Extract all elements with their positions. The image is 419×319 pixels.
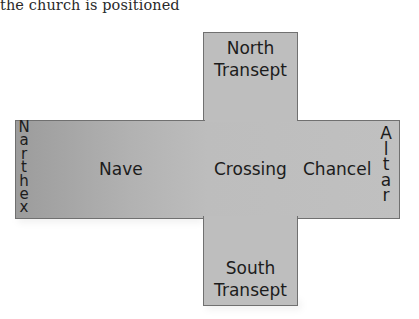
chancel-label: Chancel — [303, 161, 371, 178]
altar-label: A l t a r — [377, 126, 395, 204]
south-joint — [205, 217, 297, 220]
south-transept-label: South Transept — [203, 257, 298, 301]
north-joint — [205, 119, 297, 122]
south-transept-line1: South — [203, 257, 298, 279]
north-transept-line1: North — [203, 37, 298, 59]
caption-text: the church is positioned — [0, 0, 180, 13]
crossing-label: Crossing — [214, 161, 287, 178]
nave-label: Nave — [99, 161, 143, 178]
north-transept-line2: Transept — [203, 59, 298, 81]
altar-letter: r — [383, 188, 390, 204]
north-transept-label: North Transept — [203, 37, 298, 81]
narthex-letter: x — [20, 201, 29, 214]
south-transept-line2: Transept — [203, 279, 298, 301]
narthex-label: N a r t h e x — [16, 121, 32, 215]
